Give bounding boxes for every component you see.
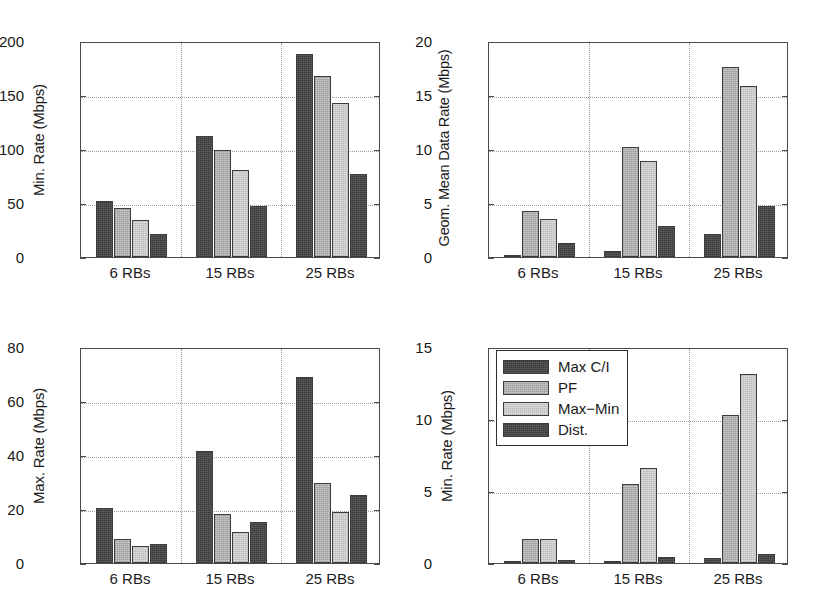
gridline-vertical: [281, 349, 282, 563]
y-axis-tick-mark-right: [782, 204, 788, 205]
y-axis-tick-label: 10: [372, 411, 432, 428]
bar: [722, 67, 739, 257]
y-axis-tick-mark-right: [374, 456, 380, 457]
bar: [758, 554, 775, 563]
y-axis-tick-mark-right: [782, 96, 788, 97]
bar: [350, 495, 367, 563]
y-axis-tick-mark: [80, 150, 86, 151]
bar: [296, 377, 313, 563]
panel-min-rate-top-left: Min. Rate (Mbps) 0501001502006 RBs15 RBs…: [0, 0, 408, 306]
bar: [114, 208, 131, 257]
y-axis-tick-mark: [488, 96, 494, 97]
y-axis-tick-mark: [488, 42, 494, 43]
plot-area: [80, 42, 380, 258]
bar: [604, 251, 621, 257]
y-axis-tick-label: 5: [372, 483, 432, 500]
y-axis-tick-label: 5: [372, 195, 432, 212]
legend-label: PF: [558, 380, 577, 395]
bar: [314, 76, 331, 257]
bar: [332, 103, 349, 257]
y-axis-tick-mark-right: [782, 42, 788, 43]
y-axis-tick-mark: [80, 42, 86, 43]
gridline-vertical: [281, 43, 282, 257]
y-axis-tick-mark-right: [782, 564, 788, 565]
bar: [332, 512, 349, 563]
y-axis-tick-mark: [488, 150, 494, 151]
bar: [96, 201, 113, 257]
bar: [704, 558, 721, 563]
four-panel-bar-chart-figure: Min. Rate (Mbps) 0501001502006 RBs15 RBs…: [0, 0, 816, 613]
y-axis-tick-mark: [488, 204, 494, 205]
bar: [214, 150, 231, 257]
y-axis-tick-label: 10: [372, 141, 432, 158]
bar: [96, 508, 113, 563]
gridline-vertical: [181, 349, 182, 563]
y-axis-tick-label: 80: [0, 339, 24, 356]
bar: [722, 415, 739, 563]
bar: [132, 220, 149, 257]
gridline-horizontal: [81, 97, 379, 98]
x-axis-tick-label: 25 RBs: [275, 570, 385, 587]
gridline-vertical: [181, 43, 182, 257]
bar: [250, 522, 267, 563]
bar: [640, 468, 657, 563]
y-axis-tick-mark-right: [782, 150, 788, 151]
gridline-horizontal: [81, 403, 379, 404]
plot-area: [488, 42, 788, 258]
bar: [740, 86, 757, 257]
bar: [150, 234, 167, 257]
y-axis-label: Geom. Mean Data Rate (Mbps): [436, 28, 458, 268]
y-axis-tick-mark: [80, 402, 86, 403]
y-axis-tick-mark: [80, 510, 86, 511]
bar: [558, 560, 575, 563]
y-axis-tick-label: 150: [0, 87, 24, 104]
bar: [622, 147, 639, 257]
bar: [640, 161, 657, 257]
y-axis-tick-label: 60: [0, 393, 24, 410]
y-axis-tick-mark: [488, 420, 494, 421]
bar: [522, 539, 539, 563]
x-axis-tick-label: 6 RBs: [75, 570, 185, 587]
legend-swatch: [503, 402, 549, 416]
gridline-vertical: [689, 349, 690, 563]
y-axis-tick-label: 200: [0, 33, 24, 50]
bar: [758, 206, 775, 257]
bar: [196, 136, 213, 257]
y-axis-tick-mark-right: [374, 402, 380, 403]
y-axis-tick-label: 100: [0, 141, 24, 158]
y-axis-tick-label: 50: [0, 195, 24, 212]
bar: [214, 514, 231, 563]
y-axis-tick-label: 0: [0, 555, 24, 572]
legend-swatch: [503, 423, 549, 437]
legend-item: Max C/I: [503, 356, 619, 377]
legend-item: PF: [503, 377, 619, 398]
bar: [604, 561, 621, 563]
x-axis-tick-label: 15 RBs: [175, 264, 285, 281]
y-axis-label: Min. Rate (Mbps): [438, 331, 460, 561]
y-axis-tick-label: 0: [372, 555, 432, 572]
y-axis-tick-mark: [80, 456, 86, 457]
x-axis-tick-label: 6 RBs: [75, 264, 185, 281]
bar: [704, 234, 721, 257]
legend-swatch: [503, 360, 549, 374]
x-axis-tick-label: 6 RBs: [483, 570, 593, 587]
panel-geom-mean-top-right: Geom. Mean Data Rate (Mbps) 051015206 RB…: [408, 0, 816, 306]
x-axis-tick-label: 6 RBs: [483, 264, 593, 281]
bar: [132, 546, 149, 563]
y-axis-tick-label: 0: [0, 249, 24, 266]
x-axis-tick-label: 15 RBs: [175, 570, 285, 587]
x-axis-tick-label: 25 RBs: [275, 264, 385, 281]
bar: [296, 54, 313, 257]
gridline-vertical: [589, 43, 590, 257]
legend-label: Max C/I: [558, 359, 610, 374]
legend-swatch: [503, 381, 549, 395]
bar: [740, 374, 757, 563]
y-axis-tick-mark: [80, 204, 86, 205]
bar: [522, 211, 539, 257]
panel-max-rate-bottom-left: Max. Rate (Mbps) 0204060806 RBs15 RBs25 …: [0, 306, 408, 612]
bar: [504, 561, 521, 563]
legend-item: Dist.: [503, 419, 619, 440]
bar: [350, 174, 367, 257]
y-axis-tick-label: 20: [0, 501, 24, 518]
bar: [540, 219, 557, 257]
